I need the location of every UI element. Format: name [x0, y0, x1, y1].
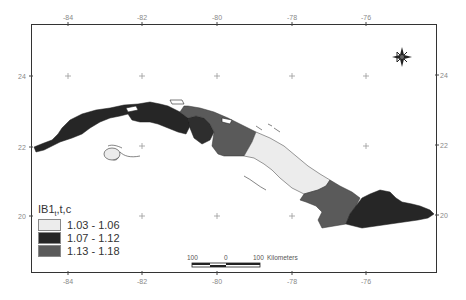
legend-item: 1.03 - 1.06	[38, 218, 120, 231]
region-east-dark	[346, 190, 434, 228]
legend-swatch-dark	[38, 232, 61, 244]
legend-title: IB1t,t,c	[38, 203, 120, 217]
region-west	[34, 102, 190, 152]
legend-item: 1.13 - 1.18	[38, 244, 120, 257]
scale-bar-graphic	[192, 263, 260, 267]
legend-item: 1.07 - 1.12	[38, 231, 120, 244]
legend-swatch-light	[38, 219, 61, 231]
isla-juventud	[104, 148, 120, 160]
north-arrow-icon	[392, 47, 412, 67]
scale-left-label: 100	[187, 254, 198, 261]
scale-units-label: Kilometers	[267, 254, 298, 261]
scale-right-label: 100	[253, 254, 264, 261]
legend-swatch-medium	[38, 245, 61, 257]
scale-mid-label: 0	[224, 254, 228, 261]
legend: IB1t,t,c 1.03 - 1.06 1.07 - 1.12 1.13 - …	[38, 203, 120, 257]
